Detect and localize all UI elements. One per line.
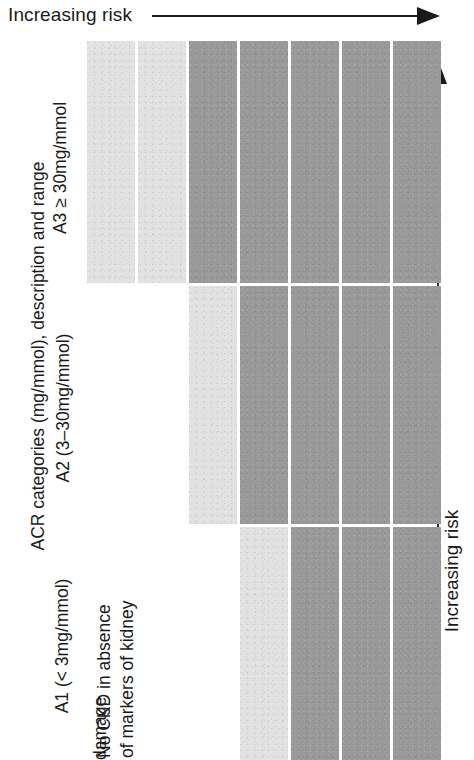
heatmap-cell-a3-g4[interactable] xyxy=(240,41,288,283)
heatmap-cell-a2-g4[interactable] xyxy=(240,286,288,524)
heatmap-row-a3 xyxy=(0,41,474,283)
heatmap-cell-a2-g7[interactable] xyxy=(393,286,441,524)
right-risk-axis-label: Increasing risk xyxy=(441,491,463,651)
top-risk-axis: Increasing risk xyxy=(0,0,474,38)
heatmap-cell-a1-g4[interactable] xyxy=(240,527,288,760)
no-ckd-note-line-2: of markers of kidney xyxy=(117,538,137,758)
heatmap-cell-a2-g3[interactable] xyxy=(189,286,237,524)
right-arrow-icon xyxy=(152,4,442,28)
category-label-a3: A3 ≥ 30mg/mmol xyxy=(50,48,70,288)
acr-categories-axis-title: ACR categories (mg/mmol), description an… xyxy=(28,6,48,706)
no-ckd-note-line-3: damage xyxy=(90,640,110,760)
heatmap-cell-a3-g6[interactable] xyxy=(342,41,390,283)
heatmap-cell-a1-g5[interactable] xyxy=(291,527,339,760)
heatmap-cell-a2-g6[interactable] xyxy=(342,286,390,524)
heatmap-cell-a3-g2[interactable] xyxy=(138,41,186,283)
heatmap-cell-a1-g7[interactable] xyxy=(393,527,441,760)
category-label-a2: A2 (3–30mg/mmol) xyxy=(53,288,73,528)
heatmap-cell-a3-g5[interactable] xyxy=(291,41,339,283)
heatmap-cell-a3-g7[interactable] xyxy=(393,41,441,283)
heatmap-cell-a2-g5[interactable] xyxy=(291,286,339,524)
heatmap-cell-a3-g3[interactable] xyxy=(189,41,237,283)
top-risk-axis-label: Increasing risk xyxy=(8,2,132,28)
category-label-a1: A1 (< 3mg/mmol) xyxy=(52,536,72,756)
heatmap-cell-a3-g1[interactable] xyxy=(87,41,135,283)
heatmap-cell-a1-g6[interactable] xyxy=(342,527,390,760)
